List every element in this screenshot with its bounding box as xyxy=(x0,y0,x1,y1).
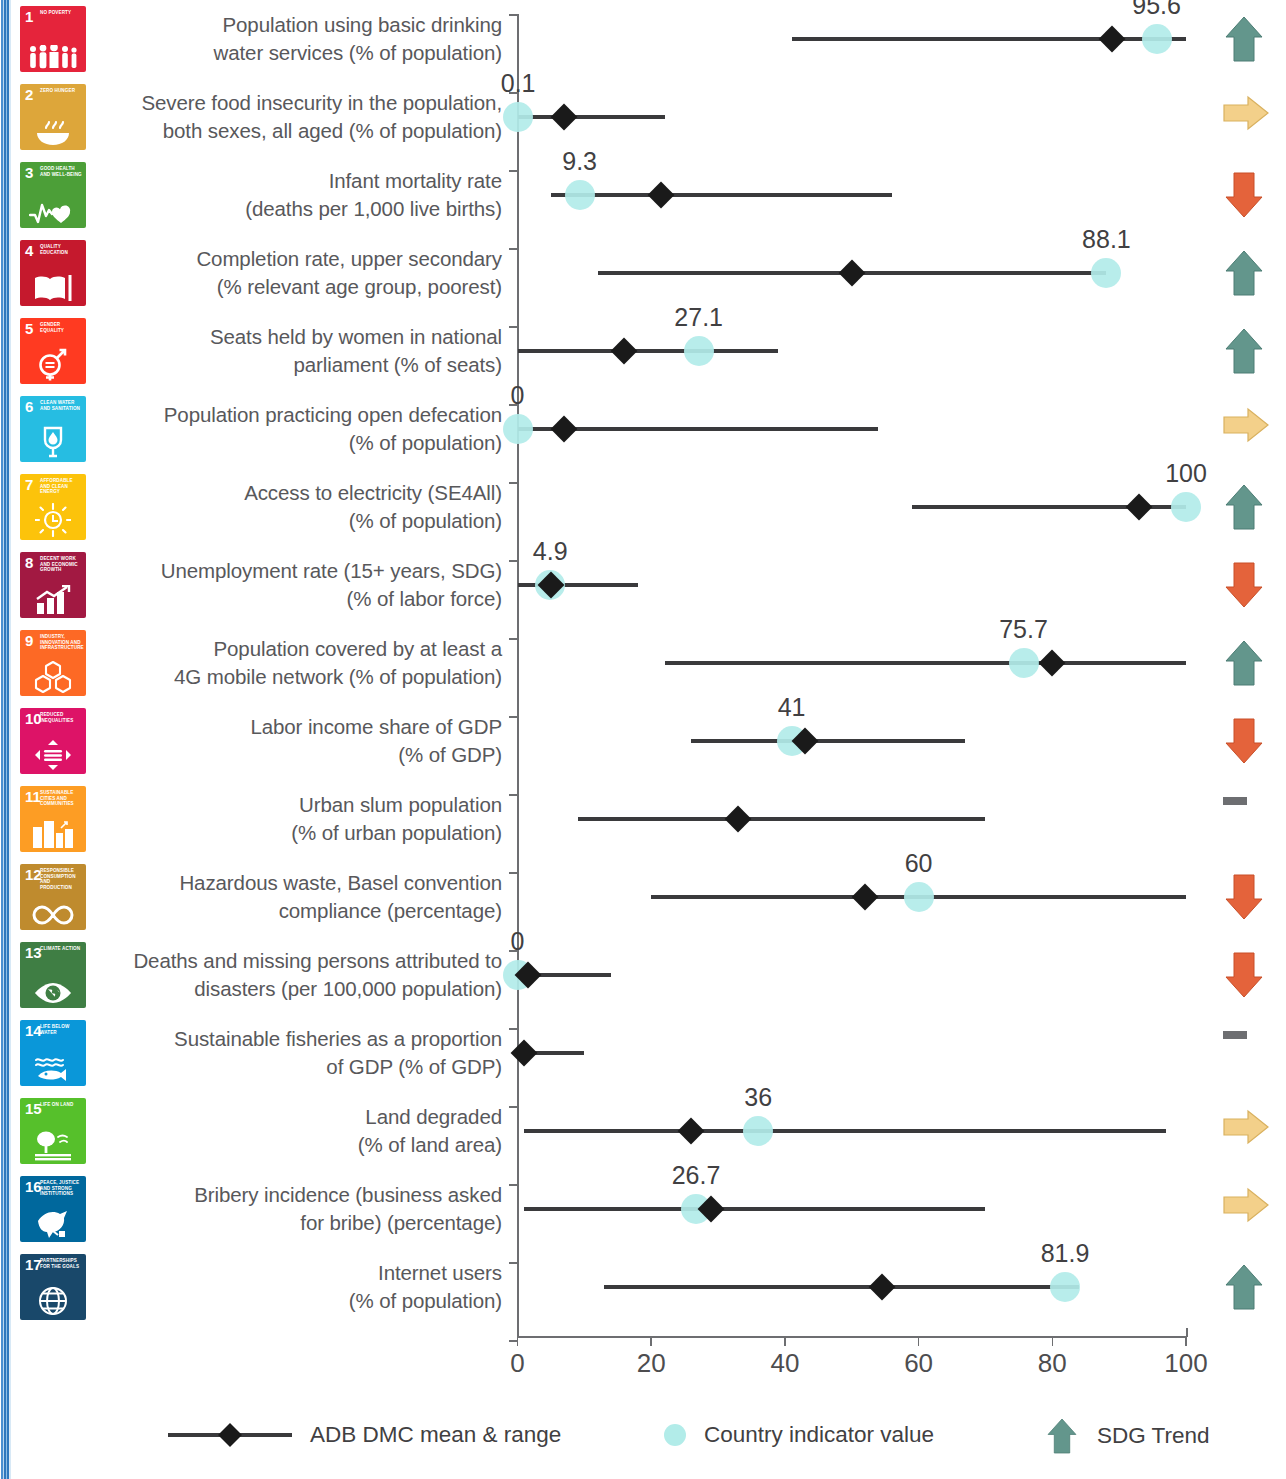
indicator-label-line: (% of population) xyxy=(349,1287,502,1315)
indicator-label: Urban slum population(% of urban populat… xyxy=(96,780,502,858)
indicator-label-line: Internet users xyxy=(378,1259,502,1287)
goal-number: 11 xyxy=(25,789,41,804)
sdg-trend-up-icon xyxy=(1222,327,1266,375)
chart-legend: ADB DMC mean & range Country indicator v… xyxy=(0,1404,1286,1476)
range-symbol xyxy=(168,1424,292,1446)
indicator-label-line: both sexes, all aged (% of population) xyxy=(163,117,502,145)
country-value-label: 88.1 xyxy=(1082,225,1131,254)
eye-earth-icon xyxy=(20,981,86,1005)
x-tick xyxy=(918,1336,920,1346)
infinity-icon xyxy=(20,903,86,927)
indicator-label-line: Deaths and missing persons attributed to xyxy=(133,947,502,975)
indicator-label: Bribery incidence (business askedfor bri… xyxy=(96,1170,502,1248)
indicator-label-line: 4G mobile network (% of population) xyxy=(174,663,502,691)
indicator-label-line: Population covered by at least a xyxy=(213,635,502,663)
country-indicator-dot xyxy=(503,102,533,132)
goal-title: REDUCED INEQUALITIES xyxy=(40,712,82,723)
y-tick xyxy=(509,1340,518,1342)
range-line xyxy=(792,37,1186,40)
range-line xyxy=(551,193,892,196)
goal-number: 1 xyxy=(25,9,33,24)
indicator-label-line: parliament (% of seats) xyxy=(294,351,502,379)
goal-number: 5 xyxy=(25,321,33,336)
country-value-label: 0 xyxy=(511,381,525,410)
sdg-goal-4-icon: 4QUALITY EDUCATION xyxy=(20,240,86,306)
sdg-goal-6-icon: 6CLEAN WATER AND SANITATION xyxy=(20,396,86,462)
indicator-label-line: Labor income share of GDP xyxy=(250,713,502,741)
sdg-trend-down-icon xyxy=(1222,561,1266,609)
goal-title: RESPONSIBLE CONSUMPTION AND PRODUCTION xyxy=(40,868,82,891)
country-value-label: 95.6 xyxy=(1132,0,1181,20)
heartbeat-icon xyxy=(20,199,86,225)
country-value-label: 36 xyxy=(744,1083,772,1112)
sdg-goal-17-icon: 17PARTNERSHIPS FOR THE GOALS xyxy=(20,1254,86,1320)
x-tick xyxy=(650,1336,652,1346)
sdg-goal-2-icon: 2ZERO HUNGER xyxy=(20,84,86,150)
country-dot-symbol xyxy=(664,1424,686,1446)
sdg-trend-no-data-icon xyxy=(1222,795,1266,843)
indicator-label-line: disasters (per 100,000 population) xyxy=(194,975,502,1003)
goal-title: CLEAN WATER AND SANITATION xyxy=(40,400,82,411)
indicator-label: Seats held by women in nationalparliamen… xyxy=(96,312,502,390)
sdg-goal-13-icon: 13CLIMATE ACTION xyxy=(20,942,86,1008)
dove-icon xyxy=(20,1207,86,1239)
bar-growth-icon xyxy=(20,585,86,615)
goal-title: QUALITY EDUCATION xyxy=(40,244,82,255)
tree-icon xyxy=(20,1129,86,1161)
indicator-label: Access to electricity (SE4All)(% of popu… xyxy=(96,468,502,546)
country-indicator-dot xyxy=(565,180,595,210)
goal-number: 3 xyxy=(25,165,33,180)
indicator-label: Population covered by at least a4G mobil… xyxy=(96,624,502,702)
goal-title: PARTNERSHIPS FOR THE GOALS xyxy=(40,1258,82,1269)
legend-country-label: Country indicator value xyxy=(704,1422,934,1448)
x-tick-label: 100 xyxy=(1164,1348,1207,1379)
indicator-label-line: Hazardous waste, Basel convention xyxy=(179,869,502,897)
country-indicator-dot xyxy=(1050,1272,1080,1302)
x-tick xyxy=(1185,1336,1187,1346)
indicator-label: Labor income share of GDP(% of GDP) xyxy=(96,702,502,780)
country-indicator-dot xyxy=(1171,492,1201,522)
cubes-icon xyxy=(20,661,86,693)
indicator-row: 13CLIMATE ACTION Deaths and missing pers… xyxy=(0,936,1286,1014)
sdg-trend-flat-right-icon xyxy=(1222,405,1266,453)
range-line xyxy=(524,1207,985,1210)
country-value-label: 81.9 xyxy=(1041,1239,1090,1268)
country-indicator-dot xyxy=(503,414,533,444)
country-value-label: 4.9 xyxy=(533,537,568,566)
indicator-label: Severe food insecurity in the population… xyxy=(96,78,502,156)
indicator-label-line: (% of population) xyxy=(349,429,502,457)
people-icon xyxy=(20,45,86,69)
indicator-label: Population using basic drinkingwater ser… xyxy=(96,0,502,78)
sdg-trend-up-icon xyxy=(1222,249,1266,297)
legend-item-trend: SDG Trend xyxy=(1045,1416,1210,1456)
range-line xyxy=(665,661,1186,664)
sdg-goal-5-icon: 5GENDER EQUALITY xyxy=(20,318,86,384)
country-value-label: 0 xyxy=(511,927,525,956)
indicator-label: Internet users(% of population) xyxy=(96,1248,502,1326)
indicator-row: 10REDUCED INEQUALITIES Labor income shar… xyxy=(0,702,1286,780)
indicator-label: Land degraded(% of land area) xyxy=(96,1092,502,1170)
legend-item-range: ADB DMC mean & range xyxy=(168,1422,561,1448)
goal-number: 6 xyxy=(25,399,33,414)
indicator-label-line: (% of land area) xyxy=(358,1131,502,1159)
indicator-label-line: Unemployment rate (15+ years, SDG) xyxy=(161,557,502,585)
range-line xyxy=(691,739,965,742)
indicator-label: Hazardous waste, Basel conventioncomplia… xyxy=(96,858,502,936)
range-line xyxy=(518,115,665,118)
city-icon xyxy=(20,819,86,849)
range-line xyxy=(524,1129,1166,1132)
goal-title: PEACE, JUSTICE AND STRONG INSTITUTIONS xyxy=(40,1180,82,1197)
goal-title: NO POVERTY xyxy=(40,10,82,16)
indicator-row: 14LIFE BELOW WATER Sustainable fisheries… xyxy=(0,1014,1286,1092)
sdg-trend-no-data-icon xyxy=(1222,1029,1266,1077)
indicator-label-line: Sustainable fisheries as a proportion xyxy=(174,1025,502,1053)
country-indicator-dot xyxy=(1009,648,1039,678)
sdg-goal-1-icon: 1NO POVERTY xyxy=(20,6,86,72)
sdg-goal-15-icon: 15LIFE ON LAND xyxy=(20,1098,86,1164)
water-drop-icon xyxy=(20,425,86,459)
sdg-trend-down-icon xyxy=(1222,951,1266,999)
sdg-goal-12-icon: 12RESPONSIBLE CONSUMPTION AND PRODUCTION xyxy=(20,864,86,930)
indicator-label-line: Urban slum population xyxy=(299,791,502,819)
indicator-label-line: Population using basic drinking xyxy=(222,11,502,39)
goal-title: SUSTAINABLE CITIES AND COMMUNITIES xyxy=(40,790,82,807)
